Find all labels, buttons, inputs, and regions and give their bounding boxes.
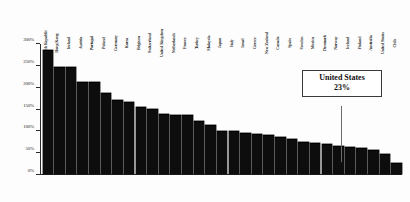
bar-category-label: Netherlands: [172, 33, 176, 53]
bar-item: Switzerland: [147, 44, 158, 174]
callout-value: 23%: [305, 83, 379, 93]
bar-category-label: Mexico: [311, 37, 315, 49]
y-axis-tick-label: 50%: [25, 146, 34, 151]
bar-item: France: [182, 44, 193, 174]
bar: Iceland: [345, 147, 356, 174]
bar: France: [182, 115, 193, 175]
bar-series: Czech RepublicHong KongIrelandAustriaPor…: [41, 44, 402, 174]
bar: Mexico: [310, 143, 321, 174]
bar: United Kingdom: [159, 114, 170, 174]
bar-category-label: Iceland: [346, 37, 350, 49]
bar-category-label: Austria: [79, 37, 83, 50]
bar: Canada: [275, 137, 286, 174]
x-axis-line: [40, 174, 402, 175]
plot-area: 0%50%100%150%200%250%300% Czech Republic…: [40, 44, 402, 175]
bar-category-label: Chile: [392, 39, 396, 48]
bar-item: Greece: [252, 44, 263, 174]
bar-item: Australia: [368, 44, 379, 174]
bar-category-label: United Kingdom: [160, 29, 164, 57]
y-axis-tick: [36, 174, 40, 175]
bar: United States: [380, 154, 391, 175]
bar-category-label: Czech Republic: [44, 30, 48, 56]
y-axis-tick: [36, 43, 40, 44]
bar-item: Japan: [217, 44, 228, 174]
bar-item: Canada: [275, 44, 286, 174]
bar-category-label: Greece: [253, 37, 257, 49]
bar-item: Hong Kong: [54, 44, 65, 174]
bar: Poland: [101, 93, 112, 174]
bar-category-label: Israel: [241, 38, 245, 47]
bar-category-label: Korea: [125, 38, 129, 48]
bar-chart-figure: 0%50%100%150%200%250%300% Czech Republic…: [0, 0, 410, 202]
bar-category-label: Australia: [369, 35, 373, 50]
bar-item: Iceland: [345, 44, 356, 174]
bar: Sweden: [298, 142, 309, 174]
bar: Belgium: [136, 107, 147, 174]
bar-item: Netherlands: [170, 44, 181, 174]
bar-category-label: France: [183, 37, 187, 49]
y-axis-tick: [36, 152, 40, 153]
bar: Portugal: [89, 82, 100, 174]
bar: Australia: [368, 150, 379, 174]
bar-item: Israel: [240, 44, 251, 174]
bar-category-label: Norway: [334, 36, 338, 49]
bar-category-label: Malaysia: [206, 35, 210, 50]
bar: New Zealand: [263, 135, 274, 174]
bar-item: Poland: [101, 44, 112, 174]
bar-item: Sweden: [298, 44, 309, 174]
bar-item: Mexico: [310, 44, 321, 174]
bar-category-label: Spain: [288, 38, 292, 48]
bar: Israel: [240, 133, 251, 174]
bar-category-label: Belgium: [137, 36, 141, 50]
y-axis-tick-label: 0%: [28, 168, 34, 173]
bar: Italy: [229, 131, 240, 174]
bar-category-label: Canada: [276, 36, 280, 49]
bar-item: United States: [380, 44, 391, 174]
bar-item: Norway: [333, 44, 344, 174]
bar-item: Chile: [391, 44, 402, 174]
bar: Germany: [112, 100, 123, 174]
bar: Chile: [391, 163, 402, 174]
bar: Greece: [252, 134, 263, 174]
bar-category-label: Turkey: [195, 37, 199, 49]
bar-category-label: United States: [381, 32, 385, 54]
bar: Turkey: [194, 121, 205, 174]
y-axis-tick-label: 150%: [23, 102, 34, 107]
bar-category-label: Switzerland: [148, 33, 152, 53]
bar-item: Belgium: [136, 44, 147, 174]
united-states-callout: United States 23%: [302, 70, 382, 97]
y-axis-tick-label: 300%: [23, 37, 34, 42]
bar-category-label: Sweden: [299, 37, 303, 50]
bar-item: Portugal: [89, 44, 100, 174]
bar: Finland: [356, 148, 367, 174]
bar-item: Turkey: [194, 44, 205, 174]
bar-item: Italy: [229, 44, 240, 174]
bar-item: Germany: [112, 44, 123, 174]
bar-category-label: Germany: [113, 35, 117, 51]
bar: Hong Kong: [54, 67, 65, 174]
bar-category-label: Hong Kong: [55, 33, 59, 52]
bar-item: Czech Republic: [43, 44, 54, 174]
bar-item: United Kingdom: [159, 44, 170, 174]
callout-leader-marker: [339, 162, 344, 165]
bar: Korea: [124, 102, 135, 175]
bar-item: Korea: [124, 44, 135, 174]
bar: Norway: [333, 146, 344, 174]
bar: Spain: [287, 139, 298, 174]
bar-item: Denmark: [322, 44, 333, 174]
bar: Switzerland: [147, 109, 158, 174]
bar-category-label: Finland: [358, 37, 362, 50]
y-axis-tick-label: 200%: [23, 80, 34, 85]
bar: Netherlands: [170, 115, 181, 175]
bar-item: Finland: [356, 44, 367, 174]
y-axis-tick: [36, 87, 40, 88]
bar-item: Austria: [77, 44, 88, 174]
bar: Denmark: [322, 144, 333, 174]
bar: Czech Republic: [43, 50, 54, 175]
bar-category-label: Poland: [102, 37, 106, 49]
callout-title: United States: [305, 74, 379, 83]
y-axis-tick: [36, 109, 40, 110]
y-axis-tick-label: 100%: [23, 124, 34, 129]
bar-item: Spain: [287, 44, 298, 174]
bar-category-label: New Zealand: [265, 32, 269, 54]
